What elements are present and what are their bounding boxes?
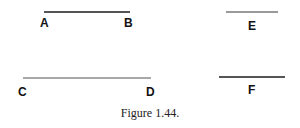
segment-ab bbox=[44, 11, 130, 13]
label-e: E bbox=[248, 20, 256, 32]
label-b: B bbox=[124, 17, 133, 29]
label-c: C bbox=[18, 86, 27, 98]
label-d: D bbox=[146, 86, 155, 98]
segment-f bbox=[219, 76, 285, 78]
figure-caption: Figure 1.44. bbox=[0, 107, 300, 119]
label-f: F bbox=[248, 84, 255, 96]
segment-e bbox=[226, 11, 278, 13]
label-a: A bbox=[40, 17, 49, 29]
segment-cd bbox=[23, 77, 151, 79]
